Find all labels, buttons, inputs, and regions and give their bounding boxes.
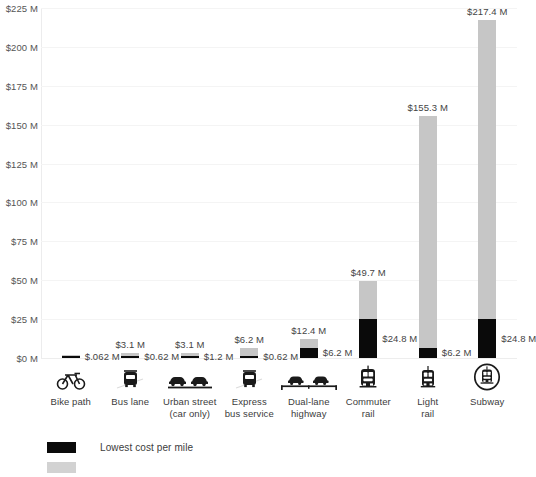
bar-column[interactable] xyxy=(121,353,139,358)
bar-segment-lowest-cost[interactable] xyxy=(121,356,139,359)
x-axis-categories: Bike pathBus laneUrban street(car only)E… xyxy=(41,365,517,427)
bar-value-label-lowest: $6.2 M xyxy=(442,347,472,358)
chart-legend: Lowest cost per mile xyxy=(47,441,347,477)
bar-value-label-lowest: $1.2 M xyxy=(204,350,234,361)
bar-value-label-lowest: $.062 M xyxy=(85,350,120,361)
gridline xyxy=(41,202,517,203)
bar-value-label-lowest: $0.62 M xyxy=(144,350,179,361)
gridline xyxy=(41,280,517,281)
gridline xyxy=(41,241,517,242)
y-axis-tick-label: $125 M xyxy=(2,158,38,169)
bar-value-label-highest: $3.1 M xyxy=(115,339,145,350)
bar-column[interactable] xyxy=(181,353,199,358)
bar-column[interactable] xyxy=(300,339,318,358)
gridline xyxy=(41,47,517,48)
bar-column[interactable] xyxy=(62,355,80,358)
bar-segment-lowest-cost[interactable] xyxy=(419,348,437,358)
plot-area: $.062 M$3.1 M$0.62 M$3.1 M$1.2 M$6.2 M$0… xyxy=(41,8,517,358)
bar-segment-lowest-cost[interactable] xyxy=(359,319,377,358)
legend-item[interactable]: Lowest cost per mile xyxy=(47,441,347,453)
bar-segment-highest-cost[interactable] xyxy=(240,348,258,355)
legend-item[interactable] xyxy=(47,461,347,473)
bar-column[interactable] xyxy=(478,20,496,358)
bar-value-label-lowest: $24.8 M xyxy=(501,332,536,343)
gridline xyxy=(41,125,517,126)
x-axis-category-label: Subway xyxy=(451,396,523,408)
gridline xyxy=(41,86,517,87)
bar-value-label-lowest: $0.62 M xyxy=(263,350,298,361)
bar-segment-lowest-cost[interactable] xyxy=(181,356,199,359)
gridline xyxy=(41,8,517,9)
bar-segment-highest-cost[interactable] xyxy=(478,20,496,320)
y-axis-tick-label: $0 M xyxy=(2,353,38,364)
bar-segment-highest-cost[interactable] xyxy=(359,281,377,320)
legend-label: Lowest cost per mile xyxy=(100,442,193,453)
y-axis-tick-label: $225 M xyxy=(2,3,38,14)
bar-value-label-highest: $217.4 M xyxy=(467,6,507,17)
y-axis-tick-label: $175 M xyxy=(2,80,38,91)
bar-value-label-highest: $3.1 M xyxy=(175,339,205,350)
subway-train-circle-icon xyxy=(451,365,523,391)
gridline xyxy=(41,319,517,320)
y-axis-tick-label: $50 M xyxy=(2,275,38,286)
y-axis-tick-label: $150 M xyxy=(2,119,38,130)
y-axis-tick-label: $25 M xyxy=(2,314,38,325)
y-axis-tick-labels: $225 M$200 M$175 M$150 M$125 M$100 M$75 … xyxy=(0,8,38,358)
y-axis-tick-label: $75 M xyxy=(2,236,38,247)
bar-value-label-highest: $12.4 M xyxy=(291,325,326,336)
bar-value-label-highest: $155.3 M xyxy=(408,102,448,113)
bar-segment-lowest-cost[interactable] xyxy=(240,356,258,359)
bar-segment-highest-cost[interactable] xyxy=(300,339,318,349)
bar-segment-highest-cost[interactable] xyxy=(419,116,437,348)
bar-value-label-lowest: $6.2 M xyxy=(323,347,353,358)
legend-swatch-low xyxy=(47,442,76,453)
gridline xyxy=(41,164,517,165)
bar-column[interactable] xyxy=(240,348,258,358)
y-axis-tick-label: $200 M xyxy=(2,41,38,52)
x-axis-category-subway[interactable]: Subway xyxy=(451,365,523,408)
bar-segment-lowest-cost[interactable] xyxy=(300,348,318,358)
legend-swatch-high xyxy=(47,462,76,473)
bar-value-label-highest: $49.7 M xyxy=(351,267,386,278)
x-axis-category-label-line: Subway xyxy=(451,396,523,408)
bar-value-label-lowest: $24.8 M xyxy=(382,332,417,343)
y-axis-tick-label: $100 M xyxy=(2,197,38,208)
x-axis-category-label-line: rail xyxy=(392,408,464,420)
bar-segment-lowest-cost[interactable] xyxy=(62,356,80,359)
bar-value-label-highest: $6.2 M xyxy=(234,334,264,345)
bar-column[interactable] xyxy=(359,281,377,358)
bar-segment-lowest-cost[interactable] xyxy=(478,319,496,358)
bar-column[interactable] xyxy=(419,116,437,358)
